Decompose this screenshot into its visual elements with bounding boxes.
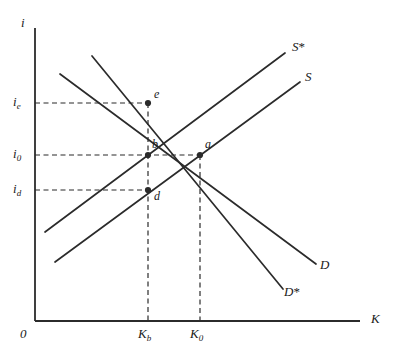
point-e: [145, 100, 151, 106]
curve-label-S: S: [305, 70, 312, 83]
curve-D_star: [92, 56, 283, 289]
y-tick-i_e: ie: [13, 95, 21, 108]
point-label-d: d: [154, 190, 160, 202]
x-tick-K_b: Kb: [138, 327, 151, 340]
x-axis-label: K: [371, 312, 380, 325]
x-tick-K_0: K0: [190, 327, 203, 340]
economics-diagram: i K 0 iei0idKbK0S*SDD*ebad: [0, 0, 403, 354]
point-b: [145, 152, 151, 158]
point-label-a: a: [205, 138, 211, 150]
curve-label-S_star: S*: [292, 40, 305, 53]
y-tick-i_d: id: [13, 182, 21, 195]
curve-label-D: D: [320, 258, 329, 271]
curve-S: [55, 82, 300, 262]
y-tick-i_0: i0: [13, 147, 21, 160]
point-d: [145, 187, 151, 193]
point-label-b: b: [152, 138, 158, 150]
curve-label-D_star: D*: [284, 285, 300, 298]
origin-label: 0: [20, 327, 27, 340]
diagram-canvas: [0, 0, 403, 354]
point-label-e: e: [154, 88, 159, 100]
curve-D: [60, 74, 316, 264]
curves: [45, 53, 316, 289]
curve-S_star: [45, 53, 285, 232]
y-axis-label: i: [21, 16, 25, 29]
point-a: [197, 152, 203, 158]
